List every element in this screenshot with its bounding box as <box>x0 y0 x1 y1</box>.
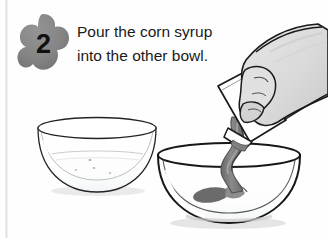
empty-bowl-speck <box>93 167 96 169</box>
empty-bowl-speck <box>109 172 112 174</box>
instruction-line-1: Pour the corn syrup <box>77 20 277 44</box>
empty-bowl <box>38 118 156 193</box>
empty-bowl-speck <box>88 159 91 161</box>
empty-bowl-rim <box>38 118 156 139</box>
instruction-line-2: into the other bowl. <box>77 44 277 68</box>
step-number: 2 <box>16 12 70 74</box>
empty-bowl-speck <box>75 169 78 171</box>
instruction-text: Pour the corn syrup into the other bowl. <box>77 20 277 68</box>
recipe-step-card: 2 Pour the corn syrup into the other bow… <box>0 0 328 238</box>
